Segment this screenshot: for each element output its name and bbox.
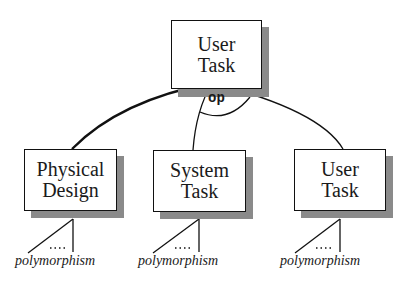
polymorphism-branch-1 — [28, 219, 73, 253]
node-label-line1: System — [170, 160, 229, 181]
node-label-line2: Design — [42, 180, 99, 201]
node-label-line2: Task — [321, 180, 358, 201]
node-box: Physical Design — [24, 149, 117, 211]
polymorphism-branch-3 — [295, 219, 340, 253]
node-label-line1: User — [198, 34, 236, 55]
polymorphism-label-3: polymorphism — [280, 253, 360, 269]
node-box: System Task — [153, 150, 246, 212]
polymorphism-label-1: polymorphism — [15, 253, 95, 269]
operator-label: op — [208, 90, 225, 106]
node-box: User Task — [171, 20, 262, 89]
node-label-line1: Physical — [37, 159, 105, 180]
node-box: User Task — [294, 149, 386, 211]
node-label-line2: Task — [198, 55, 235, 76]
polymorphism-label-2: polymorphism — [138, 253, 218, 269]
polymorphism-branch-2 — [153, 219, 199, 253]
node-label-line2: Task — [181, 181, 218, 202]
task-diagram: User Task op Physical Design System Task… — [0, 0, 407, 284]
node-label-line1: User — [321, 159, 359, 180]
